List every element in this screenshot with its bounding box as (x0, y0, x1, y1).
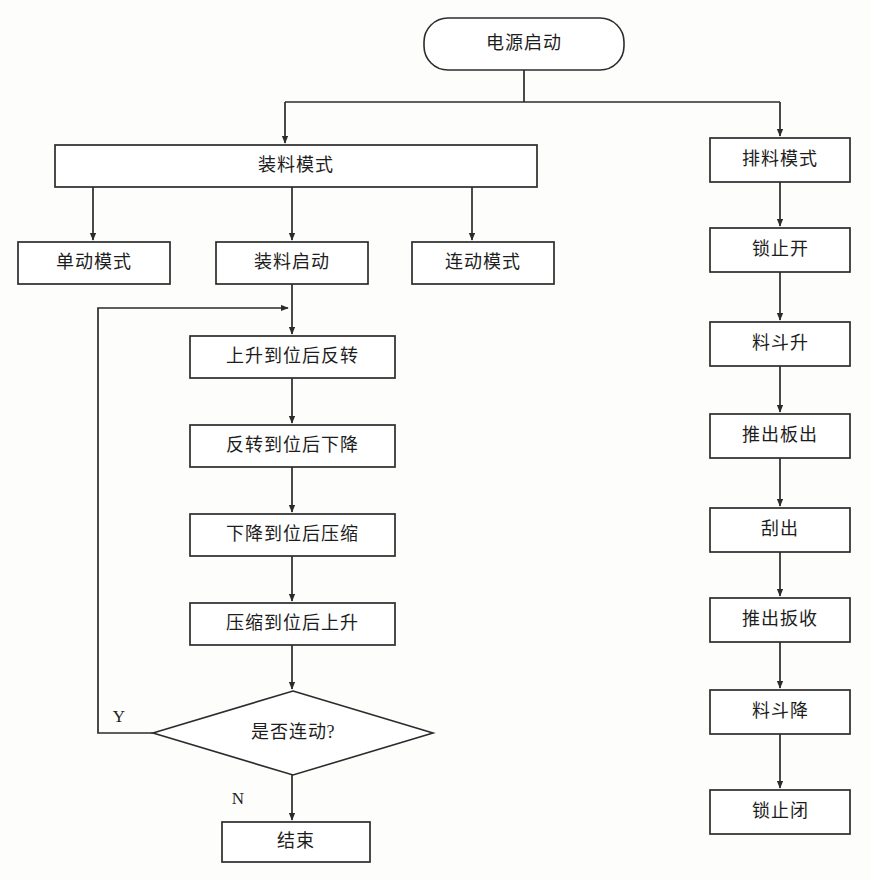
flow-node-step-1[interactable]: 上升到位后反转 (190, 336, 395, 378)
node-label: 刮出 (761, 519, 799, 539)
node-label: 上升到位后反转 (226, 346, 359, 366)
flow-node-single-mode[interactable]: 单动模式 (18, 242, 170, 284)
node-label: 下降到位后压缩 (226, 524, 359, 544)
flow-node-step-4[interactable]: 压缩到位后上升 (190, 603, 395, 645)
node-label: 锁止闭 (752, 801, 809, 821)
flowchart-svg: NY 电源启动装料模式排料模式单动模式装料启动连动模式上升到位后反转反转到位后下… (0, 0, 870, 880)
node-label: 是否连动? (251, 722, 336, 742)
flow-node-u-5[interactable]: 推出扳收 (710, 598, 850, 642)
flow-node-step-2[interactable]: 反转到位后下降 (190, 425, 395, 467)
flow-node-decision[interactable]: 是否连动? (153, 691, 433, 775)
flow-node-u-7[interactable]: 锁止闭 (710, 790, 850, 834)
node-label: 反转到位后下降 (226, 435, 359, 455)
node-label: 锁止开 (752, 239, 809, 259)
flow-edge: N (232, 775, 292, 820)
node-label: 推出板出 (742, 425, 818, 445)
node-label: 压缩到位后上升 (226, 613, 359, 633)
flow-node-linked-mode[interactable]: 连动模式 (412, 242, 554, 284)
node-label: 单动模式 (56, 252, 132, 272)
node-label: 装料模式 (258, 155, 334, 175)
node-label: 装料启动 (254, 252, 330, 272)
edge-label: Y (113, 707, 125, 726)
flow-node-u-2[interactable]: 料斗升 (710, 322, 850, 366)
flow-node-u-6[interactable]: 料斗降 (710, 690, 850, 734)
flow-node-start[interactable]: 电源启动 (424, 18, 624, 70)
flow-node-u-3[interactable]: 推出板出 (710, 414, 850, 458)
flow-node-u-1[interactable]: 锁止开 (710, 228, 850, 272)
node-label: 排料模式 (742, 149, 818, 169)
flow-node-step-3[interactable]: 下降到位后压缩 (190, 514, 395, 556)
flow-node-end[interactable]: 结束 (222, 822, 370, 862)
node-label: 电源启动 (486, 33, 562, 53)
node-label: 结束 (277, 831, 315, 851)
nodes-layer: 电源启动装料模式排料模式单动模式装料启动连动模式上升到位后反转反转到位后下降下降… (18, 18, 850, 862)
edge-label: N (232, 789, 244, 808)
flowchart-canvas: NY 电源启动装料模式排料模式单动模式装料启动连动模式上升到位后反转反转到位后下… (0, 0, 870, 880)
flow-node-unload-mode[interactable]: 排料模式 (710, 138, 850, 182)
node-label: 料斗降 (752, 701, 809, 721)
node-label: 连动模式 (445, 252, 521, 272)
node-label: 推出扳收 (742, 609, 818, 629)
flow-node-load-start[interactable]: 装料启动 (216, 242, 368, 284)
node-label: 料斗升 (752, 333, 809, 353)
flow-node-load-mode[interactable]: 装料模式 (55, 145, 537, 187)
flow-node-u-4[interactable]: 刮出 (710, 508, 850, 552)
